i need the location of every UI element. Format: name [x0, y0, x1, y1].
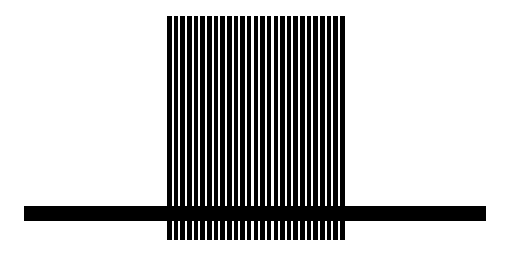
horizontal-bar	[24, 206, 486, 221]
